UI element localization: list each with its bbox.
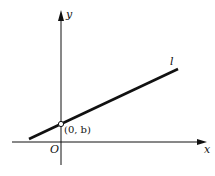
y-axis-arrow-icon [58,10,64,21]
x-axis-label: x [204,144,210,155]
origin-label: O [50,144,59,155]
line-l [29,69,178,139]
intercept-label: (0, b) [64,125,91,135]
coordinate-plane [0,0,215,176]
intercept-point [58,121,63,126]
y-axis-label: y [66,9,72,20]
line-label: l [170,56,174,67]
